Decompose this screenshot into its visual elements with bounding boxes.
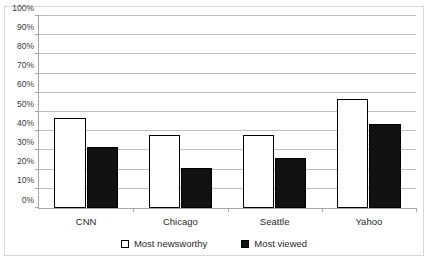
filled-square-icon bbox=[241, 240, 249, 248]
bar-chicago-most-viewed bbox=[181, 168, 212, 208]
legend-label: Most viewed bbox=[254, 239, 307, 249]
y-axis-tick-label: 100% bbox=[12, 3, 34, 12]
bar-group bbox=[228, 16, 322, 208]
bar-group bbox=[39, 16, 133, 208]
x-axis-tick-label: CNN bbox=[76, 217, 97, 227]
legend-label: Most newsworthy bbox=[134, 239, 207, 249]
y-axis-tick-label: 10% bbox=[17, 176, 34, 185]
x-axis-tick-mark bbox=[133, 208, 134, 212]
x-axis-tick-label: Chicago bbox=[163, 217, 198, 227]
plot-region: 0%10%20%30%40%50%60%70%80%90%100% CNNChi… bbox=[38, 16, 416, 209]
x-axis-tick-label: Seattle bbox=[260, 217, 290, 227]
x-axis-tick-mark bbox=[228, 208, 229, 212]
y-axis-tick-label: 70% bbox=[17, 61, 34, 70]
chart-frame: 0%10%20%30%40%50%60%70%80%90%100% CNNChi… bbox=[4, 6, 424, 256]
y-axis-tick-label: 30% bbox=[17, 138, 34, 147]
chart-legend: Most newsworthyMost viewed bbox=[5, 239, 423, 249]
bar-cnn-most-newsworthy bbox=[54, 118, 85, 208]
open-square-icon bbox=[121, 240, 129, 248]
bar-yahoo-most-newsworthy bbox=[337, 99, 368, 208]
x-axis-tick-mark bbox=[322, 208, 323, 212]
y-axis-tick-label: 60% bbox=[17, 80, 34, 89]
legend-entry-most-viewed: Most viewed bbox=[241, 239, 307, 249]
y-axis-tick-label: 20% bbox=[17, 157, 34, 166]
y-axis-tick-label: 80% bbox=[17, 42, 34, 51]
bar-group bbox=[322, 16, 416, 208]
bar-seattle-most-newsworthy bbox=[243, 135, 274, 208]
legend-entry-most-newsworthy: Most newsworthy bbox=[121, 239, 207, 249]
y-axis-tick-label: 0% bbox=[22, 195, 34, 204]
bar-cnn-most-viewed bbox=[87, 147, 118, 208]
bar-group bbox=[133, 16, 227, 208]
plot-area: 0%10%20%30%40%50%60%70%80%90%100% CNNChi… bbox=[38, 16, 416, 209]
bar-seattle-most-viewed bbox=[275, 158, 306, 208]
bar-yahoo-most-viewed bbox=[369, 124, 400, 208]
bar-chicago-most-newsworthy bbox=[149, 135, 180, 208]
y-axis-tick-label: 40% bbox=[17, 118, 34, 127]
x-axis-tick-label: Yahoo bbox=[355, 217, 382, 227]
y-axis-tick-label: 50% bbox=[17, 99, 34, 108]
y-axis-tick-label: 90% bbox=[17, 22, 34, 31]
x-axis-tick-mark bbox=[416, 208, 417, 212]
